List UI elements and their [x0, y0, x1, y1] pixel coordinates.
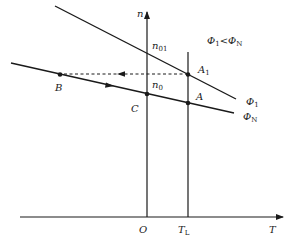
phiN-curve-label: ΦN [243, 111, 257, 124]
n01-label: n01 [152, 40, 167, 53]
point-B [58, 72, 63, 77]
t-axis-label: T [269, 224, 277, 235]
condition-label: Φ1<ΦN [207, 35, 242, 48]
phi1-characteristic [55, 6, 236, 99]
A1-label: A1 [197, 64, 210, 77]
transition-arrow-icon [117, 71, 125, 76]
point-A [186, 101, 191, 106]
A-label: A [195, 91, 203, 102]
B-label: B [54, 82, 62, 93]
point-C [145, 92, 150, 97]
C-label: C [131, 103, 139, 114]
origin-label: O [139, 224, 147, 235]
n-axis-label: n [137, 8, 143, 19]
n0-label: n0 [152, 79, 163, 92]
speed-torque-diagram: n T O TL Φ1<ΦN n01 n0 A1 A B C Φ1 ΦN [0, 0, 290, 247]
phi1-curve-label: Φ1 [246, 96, 259, 109]
point-A1 [186, 72, 191, 77]
load-torque-label: TL [178, 224, 190, 237]
